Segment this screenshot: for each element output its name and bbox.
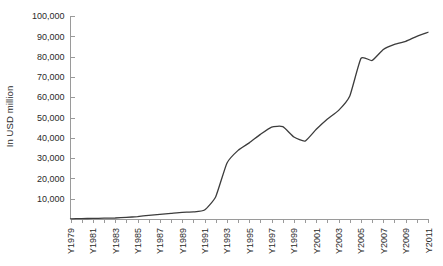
y-tick-label: 10,000 bbox=[37, 194, 65, 204]
x-tick-label: Y2009 bbox=[401, 228, 411, 254]
x-tick-label: Y2001 bbox=[312, 228, 322, 254]
x-tick-label: Y1981 bbox=[88, 228, 98, 254]
x-axis-labels: Y1979Y1981Y1983Y1985Y1987Y1989Y1991Y1993… bbox=[66, 228, 434, 254]
x-tick-label: Y2005 bbox=[356, 228, 366, 254]
y-tick-label: 20,000 bbox=[37, 174, 65, 184]
y-tick-label: 90,000 bbox=[37, 32, 65, 42]
x-tick-label: Y1979 bbox=[66, 228, 76, 254]
x-tick-label: Y1983 bbox=[111, 228, 121, 254]
x-tick-label: Y1991 bbox=[200, 228, 210, 254]
y-tick-label: 50,000 bbox=[37, 113, 65, 123]
x-tick-label: Y1985 bbox=[133, 228, 143, 254]
x-tick-label: Y1999 bbox=[289, 228, 299, 254]
y-tick-label: 80,000 bbox=[37, 52, 65, 62]
y-tick-label: 40,000 bbox=[37, 133, 65, 143]
chart-canvas: 10,00020,00030,00040,00050,00060,00070,0… bbox=[0, 0, 443, 266]
line-chart: In USD million 10,00020,00030,00040,0005… bbox=[0, 0, 443, 266]
x-tick-label: Y2007 bbox=[379, 228, 389, 254]
y-tick-label: 70,000 bbox=[37, 72, 65, 82]
x-tick-label: Y1989 bbox=[178, 228, 188, 254]
x-tick-label: Y1993 bbox=[222, 228, 232, 254]
x-tick-label: Y1987 bbox=[155, 228, 165, 254]
x-tick-label: Y2011 bbox=[424, 228, 434, 253]
y-tick-label: 30,000 bbox=[37, 153, 65, 163]
y-tick-label: 100,000 bbox=[32, 11, 65, 21]
data-series-line bbox=[71, 32, 429, 219]
x-tick-label: Y2003 bbox=[334, 228, 344, 254]
x-tick-label: Y1997 bbox=[267, 228, 277, 254]
x-tick-label: Y1995 bbox=[245, 228, 255, 254]
y-tick-label: 60,000 bbox=[37, 92, 65, 102]
y-axis-ticks: 10,00020,00030,00040,00050,00060,00070,0… bbox=[32, 11, 75, 219]
